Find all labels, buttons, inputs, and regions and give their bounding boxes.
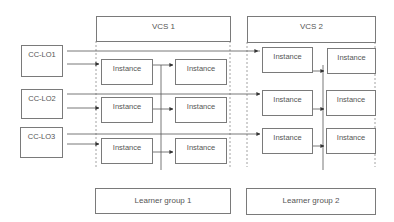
instance-r2-c2: Instance <box>175 97 227 123</box>
vcs-2-box: VCS 2 <box>247 16 376 43</box>
vcs-1-label: VCS 1 <box>97 22 230 31</box>
instance-r3-c2: Instance <box>175 138 227 164</box>
instance-r1-c1: Instance <box>101 59 153 85</box>
instance-r1-c2: Instance <box>175 59 227 85</box>
instance-label: Instance <box>102 64 152 73</box>
vcs-2-label: VCS 2 <box>248 22 375 31</box>
instance-label: Instance <box>263 133 312 142</box>
learner-group-2-label: Learner group 2 <box>247 196 375 205</box>
instance-r2-c1: Instance <box>101 97 153 123</box>
instance-label: Instance <box>328 53 375 62</box>
instance-label: Instance <box>263 52 312 61</box>
instance-r3-c1: Instance <box>101 138 153 164</box>
lo-3-box: CC-LO3 <box>20 127 63 158</box>
instance-label: Instance <box>263 95 312 104</box>
instance-label: Instance <box>102 143 152 152</box>
lo-3-label: CC-LO3 <box>21 132 62 141</box>
learner-group-1-box: Learner group 1 <box>95 188 231 214</box>
instance-r3-c3: Instance <box>262 128 313 154</box>
instance-label: Instance <box>102 102 152 111</box>
instance-label: Instance <box>176 64 226 73</box>
lo-2-label: CC-LO2 <box>22 94 62 103</box>
instance-label: Instance <box>327 95 375 104</box>
vcs-1-box: VCS 1 <box>96 16 231 42</box>
instance-label: Instance <box>176 102 226 111</box>
learner-group-1-label: Learner group 1 <box>96 196 230 205</box>
instance-r2-c4: Instance <box>326 90 376 116</box>
instance-r3-c4: Instance <box>326 128 376 154</box>
instance-r2-c3: Instance <box>262 90 313 116</box>
instance-label: Instance <box>327 133 375 142</box>
instance-r1-c3: Instance <box>262 47 313 73</box>
lo-1-box: CC-LO1 <box>21 45 63 77</box>
learner-group-2-box: Learner group 2 <box>246 188 376 215</box>
instance-label: Instance <box>176 143 226 152</box>
lo-1-label: CC-LO1 <box>22 50 62 59</box>
diagram-canvas: VCS 1 VCS 2 CC-LO1 CC-LO2 CC-LO3 Instanc… <box>0 0 394 222</box>
instance-r1-c4: Instance <box>327 48 376 74</box>
lo-2-box: CC-LO2 <box>21 89 63 119</box>
